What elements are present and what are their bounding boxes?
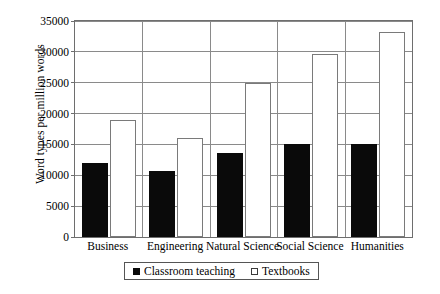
y-axis-tick-label: 30000 [13,46,75,58]
x-axis-tick-label: Engineering [147,240,203,252]
x-axis-tick-label: Natural Science [206,240,279,252]
legend-entry-textbooks: Textbooks [251,265,310,277]
x-axis-tick-label: Business [87,240,128,252]
filled-square-icon [133,268,140,275]
y-axis-tick-label: 25000 [13,77,75,89]
y-axis-tick-label: 15000 [13,138,75,150]
legend-entry-classroom-teaching: Classroom teaching [133,265,235,277]
y-axis-tick-mark [71,206,75,207]
y-axis-tick-label: 35000 [13,15,75,27]
x-axis-tick-label: Humanities [351,240,404,252]
y-axis-tick-label: 20000 [13,108,75,120]
category-separator [345,21,346,237]
y-axis-tick-mark [71,51,75,52]
bar-classroom-teaching-natural-science [217,153,243,237]
x-axis-tick-labels: BusinessEngineeringNatural ScienceSocial… [74,240,413,258]
y-axis-tick-label: 5000 [13,200,75,212]
category-separator [142,21,143,237]
gridline [75,113,412,114]
open-square-icon [251,268,258,275]
bar-classroom-teaching-engineering [149,171,175,237]
bar-textbooks-engineering [177,138,203,237]
bar-chart-figure: Word types per million words 05000100001… [0,0,440,294]
gridline [75,51,412,52]
x-axis-tick-label: Social Science [276,240,343,252]
y-axis-tick-mark [71,21,75,22]
y-axis-tick-mark [71,113,75,114]
y-axis-tick-label: 10000 [13,169,75,181]
chart-legend: Classroom teaching Textbooks [124,262,319,280]
plot-area: 05000100001500020000250003000035000 [74,20,413,238]
bar-textbooks-humanities [379,32,405,238]
legend-label: Textbooks [262,265,310,277]
y-axis-tick-mark [71,144,75,145]
y-axis-tick-mark [71,237,75,238]
category-separator [210,21,211,237]
y-axis-tick-label: 0 [13,231,75,243]
gridline [75,82,412,83]
gridline [75,21,412,22]
bar-textbooks-social-science [312,54,338,237]
bar-textbooks-business [110,120,136,237]
y-axis-tick-mark [71,175,75,176]
category-separator [277,21,278,237]
bar-textbooks-natural-science [245,83,271,237]
bar-classroom-teaching-social-science [284,144,310,237]
bar-classroom-teaching-humanities [351,144,377,237]
bar-classroom-teaching-business [82,163,108,237]
legend-label: Classroom teaching [144,265,235,277]
y-axis-tick-mark [71,82,75,83]
